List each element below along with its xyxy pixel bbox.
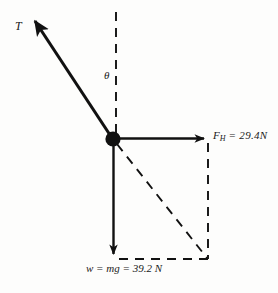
tension-label: T [15,20,22,32]
resultant-diagonal-dashed-line [117,144,207,258]
angle-theta-label: θ [104,70,109,81]
force-diagram-figure: T θ FH = 29.4N w = mg = 39.2 N [0,0,278,293]
horizontal-force-label: FH = 29.4N [213,130,267,143]
tension-vector-arrow [35,21,112,138]
horizontal-force-symbol: F [213,129,220,141]
horizontal-force-value: = 29.4N [226,129,268,141]
force-diagram-canvas [0,0,278,293]
weight-label: w = mg = 39.2 N [86,263,162,274]
point-mass-dot [105,131,120,146]
